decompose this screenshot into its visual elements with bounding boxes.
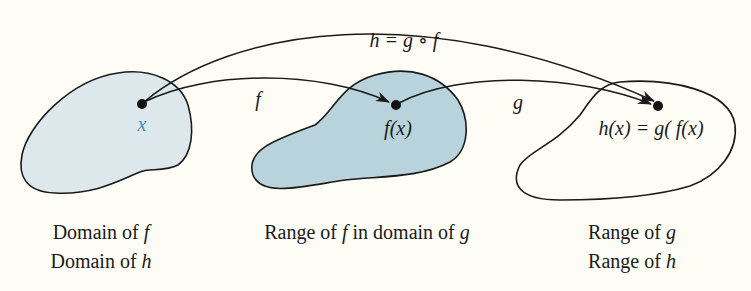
domain-caption-line1: Domain of f (50, 218, 151, 247)
range-caption-line2: Range of h (588, 247, 676, 276)
range-caption-line1: Range of g (588, 218, 676, 247)
range-of-g-region (516, 81, 735, 200)
point-fx (391, 100, 401, 110)
domain-caption-line2: Domain of h (50, 247, 151, 276)
point-x (137, 99, 147, 109)
point-x-label: x (138, 114, 147, 134)
middle-caption-line1: Range of f in domain of g (264, 218, 470, 247)
middle-caption: Range of f in domain of g (264, 218, 470, 247)
arrow-f-label: f (255, 89, 261, 109)
arrow-g-label: g (513, 92, 523, 112)
domain-region (21, 72, 192, 193)
point-hx (653, 101, 663, 111)
point-hx-label: h(x) = g( f(x) (598, 118, 703, 138)
domain-caption: Domain of f Domain of h (50, 218, 151, 276)
range-of-f-region (252, 71, 466, 188)
point-fx-label: f(x) (384, 118, 412, 138)
composition-label: h = g ∘ f (370, 30, 439, 50)
range-caption: Range of g Range of h (588, 218, 676, 276)
